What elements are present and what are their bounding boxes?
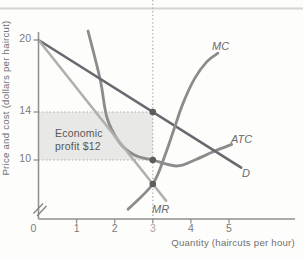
- x-tick-label-2: 2: [112, 222, 118, 234]
- x-tick-label-4: 4: [188, 222, 194, 234]
- x-tick-label-3: 3: [150, 222, 156, 234]
- y-axis-title: Price and cost (dollars per haircut): [0, 20, 11, 175]
- demand-curve-label: D: [242, 167, 250, 179]
- y-tick-label-14: 14: [19, 104, 31, 116]
- marker-dot: [150, 109, 157, 116]
- mr-curve-label: MR: [152, 203, 169, 215]
- profit-annotation-line2: profit $12: [55, 140, 101, 152]
- y-tick-label-10: 10: [19, 152, 31, 164]
- atc-curve-label: ATC: [230, 133, 252, 145]
- plot-area: 012345201410: [19, 0, 241, 234]
- marker-dot: [150, 181, 157, 188]
- monopoly-profit-figure: 012345201410 MC ATC D MR Economic profit…: [0, 0, 303, 259]
- profit-annotation-line1: Economic: [55, 127, 103, 139]
- x-tick-label-0: 0: [31, 222, 37, 234]
- mc-curve-label: MC: [212, 40, 229, 52]
- y-tick-label-20: 20: [19, 32, 31, 44]
- x-axis-title: Quantity (haircuts per hour): [171, 237, 295, 248]
- chart-svg: 012345201410 MC ATC D MR Economic profit…: [0, 0, 303, 259]
- x-tick-label-1: 1: [74, 222, 80, 234]
- x-tick-label-5: 5: [226, 222, 232, 234]
- marker-dot: [150, 157, 157, 164]
